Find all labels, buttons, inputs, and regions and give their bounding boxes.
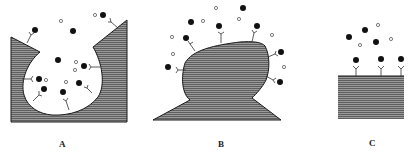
panel-c-label: C xyxy=(369,138,376,148)
diagram-canvas xyxy=(0,0,413,159)
panel-b-label: B xyxy=(218,139,224,149)
panel-c-surface xyxy=(338,76,404,119)
panel-a xyxy=(11,12,127,122)
panel-a-surface xyxy=(11,20,127,122)
open-ligand-icons xyxy=(44,13,96,83)
panel-c xyxy=(338,23,404,119)
filled-ligand-icons xyxy=(346,27,404,63)
filled-ligand-icons xyxy=(32,12,106,95)
panel-b xyxy=(153,5,286,120)
panel-a-label: A xyxy=(59,139,66,149)
receptor-icons xyxy=(353,66,404,76)
